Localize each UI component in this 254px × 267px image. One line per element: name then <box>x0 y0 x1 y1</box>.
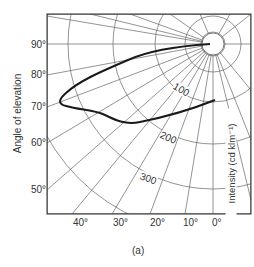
elevation-tick-80: 80° <box>31 69 46 80</box>
elevation-tick-60: 60° <box>31 137 46 148</box>
azimuth-tick-40: 40° <box>73 217 88 228</box>
right-axis-label: Intensity (cd klm⁻¹) <box>226 109 237 219</box>
elevation-tick-70: 70° <box>31 101 46 112</box>
elevation-tick-90: 90° <box>31 39 46 50</box>
figure-caption: (a) <box>132 245 144 256</box>
azimuth-tick-30: 30° <box>113 217 128 228</box>
azimuth-tick-20: 20° <box>150 217 165 228</box>
elevation-tick-50: 50° <box>31 184 46 195</box>
azimuth-tick-10: 10° <box>183 217 198 228</box>
y-axis-label: Angle of elevation <box>12 59 23 169</box>
azimuth-tick-0: 0° <box>212 217 222 228</box>
intensity-curve <box>60 44 215 123</box>
